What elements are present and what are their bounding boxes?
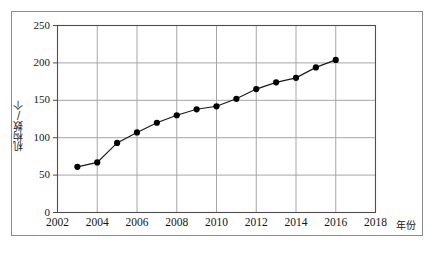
x-axis-title: 年份: [396, 217, 416, 232]
x-tick-label: 2002: [38, 216, 78, 228]
data-point: [293, 75, 299, 81]
x-tick-label: 2018: [356, 216, 396, 228]
data-point: [174, 112, 180, 118]
chart-figure: 机构数/个 250 200 150 100 50 0 2002 2004 200…: [0, 0, 433, 258]
y-tick-label: 50: [22, 168, 50, 180]
data-point: [333, 57, 339, 63]
data-point: [313, 64, 319, 70]
x-tick-label: 2006: [117, 216, 157, 228]
x-tick-label: 2014: [276, 216, 316, 228]
y-axis-ticks: [53, 26, 58, 213]
data-point: [233, 96, 239, 102]
x-tick-label: 2008: [157, 216, 197, 228]
data-point: [74, 164, 80, 170]
data-point: [194, 106, 200, 112]
x-tick-label: 2004: [77, 216, 117, 228]
x-tick-label: 2016: [316, 216, 356, 228]
y-tick-label: 150: [22, 93, 50, 105]
x-tick-label: 2010: [197, 216, 237, 228]
data-point: [154, 120, 160, 126]
y-tick-label: 250: [22, 19, 50, 31]
y-tick-label: 100: [22, 131, 50, 143]
data-point: [94, 159, 100, 165]
data-point: [273, 79, 279, 85]
data-point: [213, 103, 219, 109]
x-tick-label: 2012: [236, 216, 276, 228]
y-tick-label: 200: [22, 56, 50, 68]
data-point: [114, 140, 120, 146]
data-point: [253, 86, 259, 92]
data-point: [134, 129, 140, 135]
